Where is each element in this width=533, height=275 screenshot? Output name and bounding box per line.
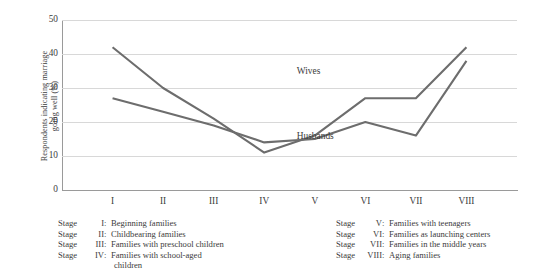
series-line-husbands xyxy=(113,61,467,143)
legend-entry-ii: StageII:Childbearing families xyxy=(58,229,224,240)
x-tick-label-VII: VII xyxy=(396,196,436,206)
x-tick-label-III: III xyxy=(194,196,234,206)
x-tick-label-VI: VI xyxy=(345,196,385,206)
legend-description: Families with school-aged xyxy=(108,250,202,261)
legend-roman-numeral: II xyxy=(84,229,104,240)
legend-entry-viii: StageVIII:Aging families xyxy=(336,250,490,261)
legend-entry-vii: StageVII:Families in the middle years xyxy=(336,239,490,250)
legend-description: Aging families xyxy=(386,250,440,261)
legend-entry-v: StageV:Families with teenagers xyxy=(336,218,490,229)
legend-entry-iii: StageIII:Families with preschool childre… xyxy=(58,239,224,250)
wives-series-label: Wives xyxy=(297,66,321,76)
chart-figure: Respondents indicating marriage going we… xyxy=(0,0,533,275)
legend-roman-numeral: I xyxy=(84,218,104,229)
legend-stage-word: Stage xyxy=(58,218,84,229)
legend-column-right: StageV:Families with teenagersStageVI:Fa… xyxy=(336,218,490,260)
legend-roman-numeral: VIII xyxy=(362,250,382,261)
x-tick-label-IV: IV xyxy=(244,196,284,206)
x-tick-label-V: V xyxy=(295,196,335,206)
legend-description: Families with preschool children xyxy=(108,239,224,250)
legend-entry-vi: StageVI:Families as launching centers xyxy=(336,229,490,240)
legend-roman-numeral: IV xyxy=(84,250,104,261)
legend-roman-numeral: VI xyxy=(362,229,382,240)
legend-description: Childbearing families xyxy=(108,229,186,240)
x-tick-label-I: I xyxy=(93,196,133,206)
legend-description: Families as launching centers xyxy=(386,229,490,240)
series-line-wives xyxy=(113,47,467,152)
legend-stage-word: Stage xyxy=(336,250,362,261)
legend-stage-word: Stage xyxy=(336,218,362,229)
legend-description: Families with teenagers xyxy=(386,218,471,229)
legend-roman-numeral: VII xyxy=(362,239,382,250)
legend-column-left: StageI:Beginning familiesStageII:Childbe… xyxy=(58,218,224,271)
legend-entry-i: StageI:Beginning families xyxy=(58,218,224,229)
legend-stage-word: Stage xyxy=(58,229,84,240)
legend-description: Beginning families xyxy=(108,218,177,229)
husbands-series-label: Husbands xyxy=(297,131,334,141)
legend-stage-word: Stage xyxy=(336,229,362,240)
legend-description-continuation: children xyxy=(58,260,224,271)
legend-stage-word: Stage xyxy=(58,239,84,250)
legend-stage-word: Stage xyxy=(58,250,84,261)
legend-roman-numeral: III xyxy=(84,239,104,250)
legend-roman-numeral: V xyxy=(362,218,382,229)
x-tick-label-VIII: VIII xyxy=(446,196,486,206)
legend-stage-word: Stage xyxy=(336,239,362,250)
x-tick-label-II: II xyxy=(143,196,183,206)
legend-description: Families in the middle years xyxy=(386,239,486,250)
legend-entry-iv: StageIV:Families with school-aged xyxy=(58,250,224,261)
stage-legend: StageI:Beginning familiesStageII:Childbe… xyxy=(0,218,533,274)
